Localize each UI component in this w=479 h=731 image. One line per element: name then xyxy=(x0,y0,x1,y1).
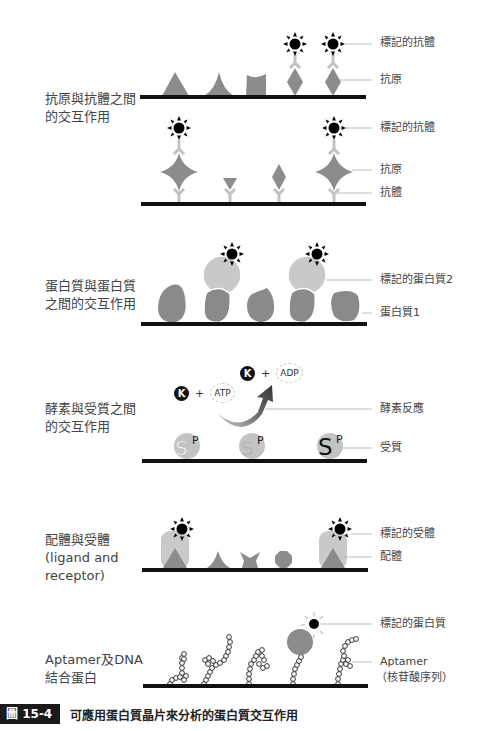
panel-ligand-receptor xyxy=(142,517,372,572)
nucleotide-bead xyxy=(260,648,265,653)
aptamer-strand xyxy=(291,650,305,687)
label-antibody: 抗體 xyxy=(380,186,402,200)
labeled-protein xyxy=(287,629,313,655)
nucleotide-bead xyxy=(337,672,342,677)
nucleotide-bead xyxy=(299,655,304,660)
label-marker-icon xyxy=(170,517,194,541)
nucleotide-bead xyxy=(248,667,253,672)
nucleotide-bead xyxy=(338,667,343,672)
panel-aptamer xyxy=(143,612,372,688)
nucleotide-bead xyxy=(342,654,347,659)
figure-caption: 圖 15-4 可應用蛋白質晶片來分析的蛋白質交互作用 xyxy=(0,704,298,724)
nucleotide-bead xyxy=(260,654,265,659)
label-aptamer: Aptamer xyxy=(380,655,428,669)
nucleotide-bead xyxy=(227,635,232,640)
surface-line xyxy=(143,684,368,688)
label-antigen: 抗原 xyxy=(380,73,402,87)
nucleotide-bead xyxy=(348,664,353,669)
nucleotide-bead xyxy=(228,640,233,645)
figure-number-badge: 圖 15-4 xyxy=(0,704,60,724)
nucleotide-bead xyxy=(291,677,296,682)
label-labeled-protein-2: 標記的蛋白質2 xyxy=(380,273,453,287)
aptamer-strand xyxy=(247,648,270,687)
label-labeled-antibody: 標記的抗體 xyxy=(380,36,435,50)
surface-line xyxy=(142,568,368,572)
nucleotide-bead xyxy=(227,645,232,650)
nucleotide-bead xyxy=(182,657,187,662)
nucleotide-bead xyxy=(247,677,252,682)
label-labeled-protein: 標記的蛋白質 xyxy=(380,617,446,631)
label-protein-1: 蛋白質1 xyxy=(380,306,420,320)
aptamer-strand xyxy=(168,652,189,687)
label-substrate: 受質 xyxy=(380,441,402,455)
nucleotide-bead xyxy=(247,672,252,677)
nucleotide-bead xyxy=(257,662,262,667)
nucleotide-bead xyxy=(265,664,270,669)
nucleotide-bead xyxy=(346,658,351,663)
nucleotide-bead xyxy=(336,677,341,682)
label-labeled-receptor: 標記的受體 xyxy=(380,527,435,541)
label-antigen: 抗原 xyxy=(380,163,402,177)
figure-caption-text: 可應用蛋白質晶片來分析的蛋白質交互作用 xyxy=(70,706,298,723)
nucleotide-bead xyxy=(292,672,297,677)
nucleotide-bead xyxy=(354,637,359,642)
label-labeled-antibody: 標記的抗體 xyxy=(380,121,435,135)
label-nucleotide-sequence: （核苷酸序列） xyxy=(376,671,453,685)
nucleotide-bead xyxy=(180,666,185,671)
label-marker-icon xyxy=(309,619,319,629)
ligand-concave-triangle xyxy=(207,551,230,568)
aptamer-strand xyxy=(202,635,233,687)
ligand-octagon xyxy=(275,551,292,568)
ligand-star xyxy=(240,552,260,568)
nucleotide-bead xyxy=(226,650,231,655)
label-enzyme-reaction: 酵素反應 xyxy=(380,402,424,416)
nucleotide-bead xyxy=(341,649,346,654)
nucleotide-bead xyxy=(182,652,187,657)
label-marker-icon xyxy=(328,517,352,541)
label-ligand: 配體 xyxy=(380,550,402,564)
nucleotide-bead xyxy=(182,678,187,683)
